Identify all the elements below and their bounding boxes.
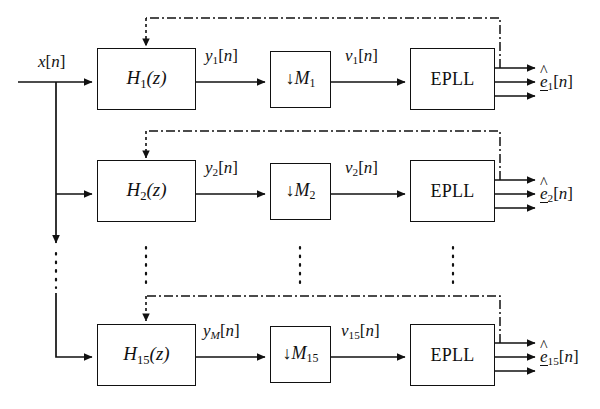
epll-block-15-label: EPLL — [430, 345, 474, 366]
decimator-block-2[interactable]: ↓M2 — [270, 163, 331, 220]
filter-output-label-2: y2[n] — [205, 158, 238, 178]
input-trunk-lower — [56, 293, 92, 357]
epll-block-2[interactable]: EPLL — [410, 160, 495, 222]
epll-block-2-label: EPLL — [430, 181, 474, 202]
decimator-output-label-2: v2[n] — [345, 158, 378, 178]
filter-block-15-label: H15(z) — [123, 343, 169, 368]
input-signal-label: x[n] — [38, 52, 65, 72]
epll-block-15[interactable]: EPLL — [410, 324, 495, 386]
epll-output-label-2: ^e2[n] — [540, 184, 573, 204]
epll-block-1-label: EPLL — [430, 69, 474, 90]
decimator-block-1-label: ↓M1 — [286, 68, 316, 91]
epll-output-label-1: ^e1[n] — [540, 72, 573, 92]
decimator-block-15[interactable]: ↓M15 — [270, 326, 331, 383]
filter-block-1-label: H1(z) — [126, 67, 166, 92]
epll-block-1[interactable]: EPLL — [410, 48, 495, 110]
decimator-output-label-15: v15[n] — [341, 321, 380, 341]
decimator-output-label-1: v1[n] — [345, 46, 378, 66]
filter-block-15[interactable]: H15(z) — [97, 324, 196, 386]
filter-output-label-1: y1[n] — [205, 46, 238, 66]
filter-block-1[interactable]: H1(z) — [97, 48, 196, 110]
epll-output-label-15: ^e15[n] — [540, 347, 579, 367]
decimator-block-2-label: ↓M2 — [286, 180, 316, 203]
block-diagram: H1(z) y1[n] ↓M1 v1[n] EPLL ^e1[n] H2(z) … — [0, 0, 600, 409]
filter-block-2-label: H2(z) — [126, 179, 166, 204]
filter-block-2[interactable]: H2(z) — [97, 160, 196, 222]
row-ellipsis-group — [56, 247, 453, 288]
decimator-block-15-label: ↓M15 — [283, 343, 319, 366]
decimator-block-1[interactable]: ↓M1 — [270, 51, 331, 108]
filter-output-label-15: yM[n] — [203, 321, 240, 341]
